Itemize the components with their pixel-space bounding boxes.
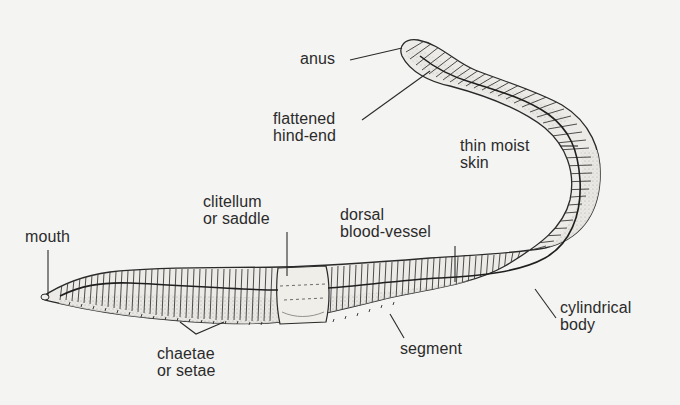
earthworm-diagram: anus flattened hind-end thin moist skin … [0,0,680,405]
label-clitellum: clitellum or saddle [203,193,270,227]
chaetae-leader [180,322,224,334]
label-anus: anus [300,50,335,67]
label-cylindrical-body: cylindrical body [560,299,631,333]
label-thin-moist-skin: thin moist skin [460,137,529,171]
label-chaetae: chaetae or setae [157,345,216,379]
label-mouth: mouth [25,228,70,245]
anus-leader [350,48,402,60]
segment-leader [390,314,404,338]
cylindrical-leader [535,289,556,318]
label-flattened-hind-end: flattened hind-end [273,110,336,144]
label-dorsal-blood-vessel: dorsal blood-vessel [340,206,431,240]
worm-body [40,40,620,340]
clitellum-band [277,266,329,324]
label-segment: segment [400,340,462,357]
hind-end-leader [362,71,430,120]
earthworm-illustration [0,0,680,405]
